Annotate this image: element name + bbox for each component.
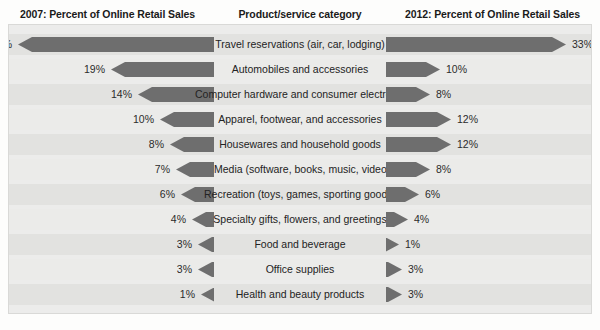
- bar-2007: [111, 62, 214, 77]
- value-label-2007: 7%: [132, 162, 170, 177]
- header-left-series: 2007: Percent of Online Retail Sales: [0, 8, 215, 20]
- value-label-2007: 6%: [137, 187, 175, 202]
- category-label: Recreation (toys, games, sporting goods): [195, 187, 405, 202]
- category-label: Apparel, footwear, and accessories: [214, 112, 386, 127]
- value-label-2007: 8%: [126, 137, 164, 152]
- category-label: Housewares and household goods: [214, 137, 386, 152]
- chart-row: 6%Recreation (toys, games, sporting good…: [9, 182, 591, 207]
- chart-row: 8%Housewares and household goods12%: [9, 132, 591, 157]
- value-label-2007: 4%: [148, 212, 186, 227]
- chart-row: 4%Specialty gifts, flowers, and greeting…: [9, 207, 591, 232]
- value-label-2012: 33%: [572, 37, 592, 52]
- chart-figure: 2007: Percent of Online Retail Sales Pro…: [0, 0, 600, 330]
- value-label-2012: 12%: [457, 112, 495, 127]
- chart-row: 3%Office supplies3%: [9, 257, 591, 282]
- chart-header: 2007: Percent of Online Retail Sales Pro…: [0, 6, 600, 22]
- value-label-2012: 4%: [414, 212, 452, 227]
- value-label-2007: 1%: [157, 287, 195, 302]
- header-category: Product/service category: [215, 8, 385, 20]
- value-label-2012: 3%: [408, 262, 446, 277]
- category-label: Media (software, books, music, video): [214, 162, 386, 177]
- category-label: Food and beverage: [214, 237, 386, 252]
- value-label-2007: 36%: [8, 37, 12, 52]
- value-label-2012: 12%: [457, 137, 495, 152]
- value-label-2012: 8%: [436, 87, 474, 102]
- value-label-2007: 3%: [154, 262, 192, 277]
- chart-row: 10%Apparel, footwear, and accessories12%: [9, 107, 591, 132]
- value-label-2012: 6%: [425, 187, 463, 202]
- bar-2012: [386, 37, 566, 52]
- chart-row: 7%Media (software, books, music, video)8…: [9, 157, 591, 182]
- value-label-2007: 19%: [67, 62, 105, 77]
- value-label-2007: 3%: [154, 237, 192, 252]
- category-label: Health and beauty products: [214, 287, 386, 302]
- bar-2007: [18, 37, 214, 52]
- value-label-2012: 8%: [436, 162, 474, 177]
- category-label: Automobiles and accessories: [214, 62, 386, 77]
- chart-row: 36%Travel reservations (air, car, lodgin…: [9, 32, 591, 57]
- category-label: Computer hardware and consumer electroni…: [195, 87, 405, 102]
- chart-row: 14%Computer hardware and consumer electr…: [9, 82, 591, 107]
- chart-panel: 36%Travel reservations (air, car, lodgin…: [8, 24, 592, 314]
- chart-row: 3%Food and beverage1%: [9, 232, 591, 257]
- value-label-2007: 10%: [116, 112, 154, 127]
- chart-rows: 36%Travel reservations (air, car, lodgin…: [9, 25, 591, 313]
- header-right-series: 2012: Percent of Online Retail Sales: [385, 8, 600, 20]
- chart-row: 19%Automobiles and accessories10%: [9, 57, 591, 82]
- chart-row: 1%Health and beauty products3%: [9, 282, 591, 307]
- value-label-2012: 3%: [408, 287, 446, 302]
- category-label: Travel reservations (air, car, lodging): [195, 37, 405, 52]
- value-label-2012: 10%: [446, 62, 484, 77]
- category-label: Specialty gifts, flowers, and greetings: [195, 212, 405, 227]
- value-label-2007: 14%: [94, 87, 132, 102]
- category-label: Office supplies: [214, 262, 386, 277]
- value-label-2012: 1%: [405, 237, 443, 252]
